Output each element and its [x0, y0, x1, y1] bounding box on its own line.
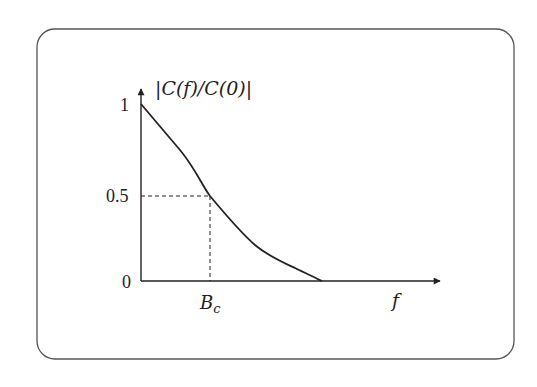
y-tick-0: 0 — [122, 272, 131, 292]
correlation-curve — [141, 104, 322, 281]
y-tick-half: 0.5 — [106, 186, 129, 206]
y-tick-1: 1 — [120, 95, 129, 115]
x-axis-label: f — [390, 289, 402, 311]
coherence-bandwidth-diagram: |C(f)/C(0)| 1 0.5 0 Bc f — [0, 0, 537, 387]
bandwidth-label: Bc — [199, 292, 221, 316]
svg-text:|C(f)/C(0)|: |C(f)/C(0)| — [155, 77, 252, 100]
y-axis-label: |C(f)/C(0)| — [155, 77, 252, 100]
